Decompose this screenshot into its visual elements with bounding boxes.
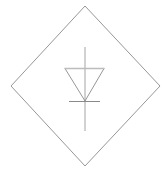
canvas-background [0, 0, 167, 172]
schematic-canvas [0, 0, 167, 172]
diode-schematic-figure [0, 0, 167, 172]
